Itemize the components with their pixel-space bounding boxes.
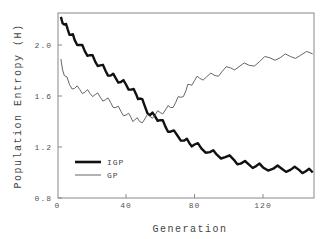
x-tick-label: 40 (120, 201, 132, 210)
x-axis: 04080120 (55, 194, 272, 210)
x-axis-label: Generation (152, 224, 227, 235)
y-axis-label: Population Entropy (H) (13, 23, 24, 188)
plot-frame (58, 13, 314, 198)
x-tick-label: 0 (55, 201, 61, 210)
series-line-gp (61, 51, 313, 122)
legend: IGP GP (75, 158, 124, 180)
series-layer (61, 17, 313, 173)
population-entropy-chart: 0.81.21.62.0 04080120 Generation Populat… (0, 0, 330, 239)
y-tick-label: 1.2 (35, 143, 52, 152)
legend-label-gp: GP (107, 171, 119, 180)
y-tick-label: 0.8 (35, 194, 52, 203)
legend-label-igp: IGP (107, 158, 124, 167)
y-tick-label: 2.0 (35, 41, 52, 50)
y-tick-label: 1.6 (35, 92, 52, 101)
x-tick-label: 80 (189, 201, 201, 210)
x-tick-label: 120 (254, 201, 271, 210)
